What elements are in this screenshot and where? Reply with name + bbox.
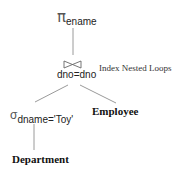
selection-condition: dname='Toy' (17, 114, 73, 125)
projection-symbol: π (57, 8, 66, 26)
relation-employee: Employee (92, 106, 138, 117)
edge-join-selection (35, 85, 68, 102)
join-icon (64, 61, 81, 68)
join-method-label: Index Nested Loops (99, 64, 171, 73)
relation-department: Department (12, 154, 69, 165)
edge-join-employee (80, 85, 116, 103)
projection-node: πename (57, 9, 97, 25)
projection-attribute: ename (66, 16, 97, 27)
join-condition: dno=dno (57, 70, 96, 80)
selection-node: σdname='Toy' (10, 106, 73, 122)
